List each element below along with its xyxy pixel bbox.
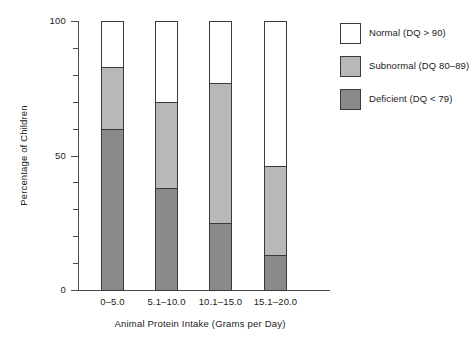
legend-swatch (340, 89, 361, 110)
y-tick-minor (73, 75, 79, 76)
stacked-bar-chart: Percentage of Children 050100 0–5.05.1–1… (0, 0, 474, 343)
legend-item: Deficient (DQ < 79) (340, 88, 474, 114)
bar-4 (264, 21, 287, 290)
x-tick-label: 15.1–20.0 (236, 296, 316, 307)
y-tick-minor (73, 263, 79, 264)
y-tick-major (71, 21, 79, 22)
y-tick-minor (73, 182, 79, 183)
y-tick-label-wrap: 0 (34, 284, 66, 296)
legend-label: Deficient (DQ < 79) (369, 93, 452, 104)
y-tick-minor (73, 48, 79, 49)
bar-segment-deficient (209, 223, 232, 291)
bar-segment-deficient (155, 188, 178, 291)
legend-swatch (340, 23, 361, 44)
bar-segment-deficient (264, 255, 287, 291)
legend-swatch (340, 56, 361, 77)
bar-segment-subnormal (155, 102, 178, 189)
legend-item: Normal (DQ > 90) (340, 22, 474, 48)
y-tick-minor (73, 102, 79, 103)
bar-2 (155, 21, 178, 290)
bar-segment-normal (264, 21, 287, 167)
y-tick-label: 50 (34, 150, 66, 161)
y-tick-label-wrap: 100 (34, 15, 66, 27)
bar-3 (209, 21, 232, 290)
y-axis-title: Percentage of Children (14, 21, 34, 290)
legend-label: Normal (DQ > 90) (369, 27, 446, 38)
y-tick-label: 100 (34, 15, 66, 26)
y-tick-minor (73, 209, 79, 210)
bar-segment-subnormal (101, 67, 124, 130)
legend-label: Subnormal (DQ 80–89) (369, 60, 469, 71)
y-tick-label-wrap: 50 (34, 150, 66, 162)
y-tick-minor (73, 236, 79, 237)
bar-1 (101, 21, 124, 290)
bar-segment-subnormal (209, 83, 232, 224)
y-tick-label: 0 (34, 284, 66, 295)
bar-segment-subnormal (264, 166, 287, 256)
bar-segment-normal (155, 21, 178, 103)
y-tick-major (71, 290, 79, 291)
y-tick-minor (73, 129, 79, 130)
bar-segment-normal (101, 21, 124, 68)
bar-segment-normal (209, 21, 232, 84)
bar-segment-deficient (101, 129, 124, 291)
x-axis-title: Animal Protein Intake (Grams per Day) (40, 318, 360, 329)
legend-item: Subnormal (DQ 80–89) (340, 55, 474, 81)
chart-legend: Normal (DQ > 90)Subnormal (DQ 80–89)Defi… (340, 22, 474, 121)
y-tick-major (71, 156, 79, 157)
